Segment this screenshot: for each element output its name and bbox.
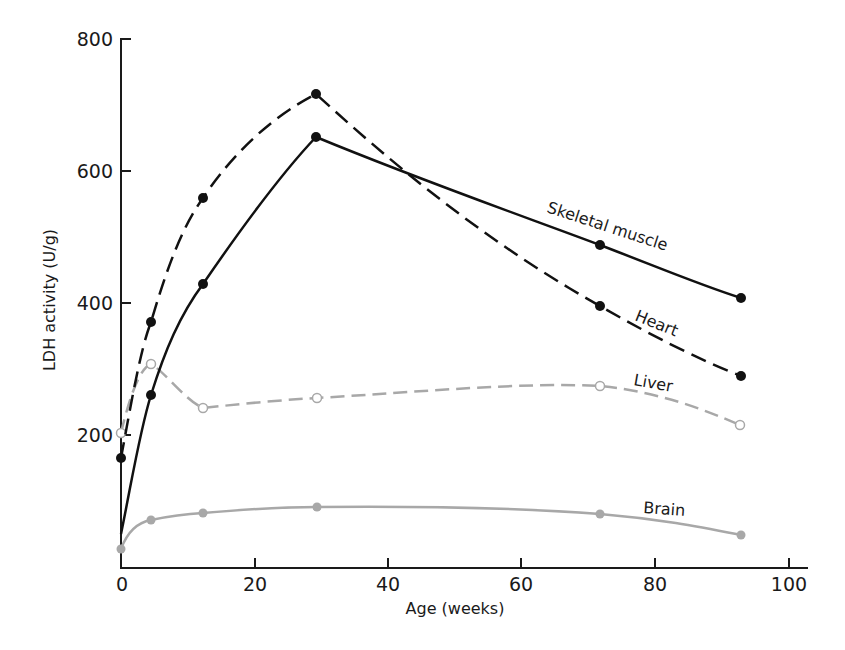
x-tick-40: 40: [376, 573, 400, 595]
x-axis: 0 20 40 60 80 100 Age (weeks): [116, 558, 808, 618]
y-tick-200: 200: [77, 424, 113, 446]
label-brain: Brain: [643, 498, 686, 520]
x-tick-80: 80: [643, 573, 667, 595]
y-tick-400: 400: [77, 292, 113, 314]
x-tick-60: 60: [509, 573, 533, 595]
y-tick-600: 600: [77, 160, 113, 182]
x-tick-100: 100: [771, 573, 807, 595]
y-axis: 800 600 400 200 LDH activity (U/g): [40, 28, 131, 568]
y-tick-800: 800: [77, 28, 113, 50]
label-skeletal-muscle: Skeletal muscle: [545, 198, 670, 255]
series-brain: Brain: [117, 498, 746, 553]
x-axis-title: Age (weeks): [406, 599, 505, 618]
x-tick-0: 0: [116, 573, 128, 595]
x-tick-20: 20: [243, 573, 267, 595]
y-axis-title: LDH activity (U/g): [40, 229, 59, 371]
series-skeletal-muscle: Skeletal muscle: [121, 132, 746, 534]
ldh-activity-chart: 800 600 400 200 LDH activity (U/g) 0 20 …: [0, 0, 845, 650]
label-heart: Heart: [633, 306, 681, 340]
label-liver: Liver: [632, 370, 674, 396]
series-liver: Liver: [117, 360, 745, 438]
